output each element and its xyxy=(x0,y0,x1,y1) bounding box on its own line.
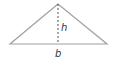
triangle-diagram: h b xyxy=(0,0,113,63)
base-label: b xyxy=(55,48,61,59)
height-label: h xyxy=(61,22,67,33)
